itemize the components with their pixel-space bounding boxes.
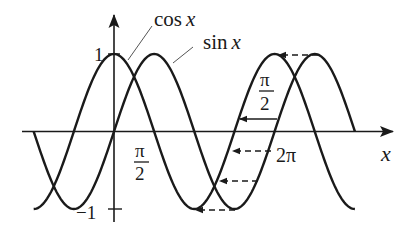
x-axis-label: x [380,141,391,166]
y-tick-label-one: 1 [94,44,104,65]
y-tick-label-minus-one: −1 [76,202,96,223]
figure: cosx sinx 1 −1 π 2 π 2 2π x [0,0,418,241]
svg-text:2: 2 [260,93,270,114]
x-tick-label-half-pi: π 2 [134,140,149,184]
svg-text:2: 2 [135,163,145,184]
x-tick-label-two-pi: 2π [276,144,296,166]
sin-leader-line [173,47,193,63]
svg-text:π: π [135,140,145,161]
trig-graph: cosx sinx 1 −1 π 2 π 2 2π x [0,0,418,241]
cos-label: cosx [154,7,196,31]
svg-text:π: π [260,69,270,90]
sin-label: sinx [203,30,242,54]
shift-amount-label: π 2 [259,69,274,114]
